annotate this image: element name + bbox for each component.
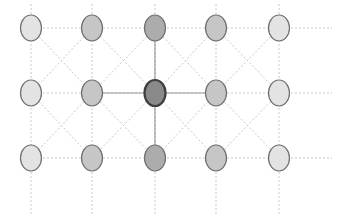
graph-node <box>21 80 42 106</box>
graph-node <box>21 15 42 41</box>
graph-node <box>269 145 290 171</box>
graph-node <box>145 145 166 171</box>
graph-node <box>206 15 227 41</box>
center-node <box>145 80 166 106</box>
graph-node <box>269 15 290 41</box>
graph-node <box>269 80 290 106</box>
graph-node <box>21 145 42 171</box>
graph-node <box>145 15 166 41</box>
graph-node <box>206 145 227 171</box>
graph-node <box>82 15 103 41</box>
graph-node <box>82 145 103 171</box>
grid-graph-diagram <box>0 0 348 224</box>
graph-node <box>82 80 103 106</box>
graph-node <box>206 80 227 106</box>
